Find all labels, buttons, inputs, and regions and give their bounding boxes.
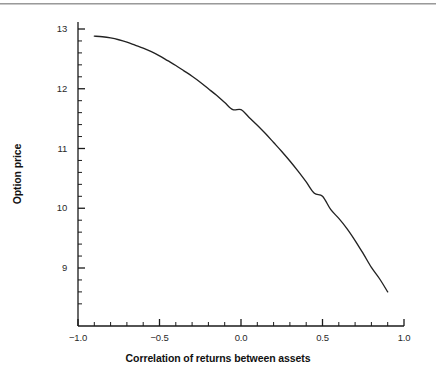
x-axis-tick-label: −1.0 [48, 332, 108, 343]
x-axis-title: Correlation of returns between assets [0, 352, 436, 364]
y-axis-tick-label: 13 [0, 23, 67, 34]
y-axis-title: Option price [11, 124, 23, 224]
x-axis-tick-label: 0.5 [293, 332, 353, 343]
x-axis-tick-label: 1.0 [374, 332, 434, 343]
x-axis-tick-label: 0.0 [211, 332, 271, 343]
y-axis-tick-label: 12 [0, 83, 67, 94]
data-series-line [94, 36, 387, 292]
plot-area [0, 0, 436, 374]
y-axis-tick-label: 9 [0, 262, 67, 273]
x-axis-tick-label: −0.5 [130, 332, 190, 343]
chart-figure: 910111213 −1.0−0.50.00.51.0 Correlation … [0, 0, 436, 374]
